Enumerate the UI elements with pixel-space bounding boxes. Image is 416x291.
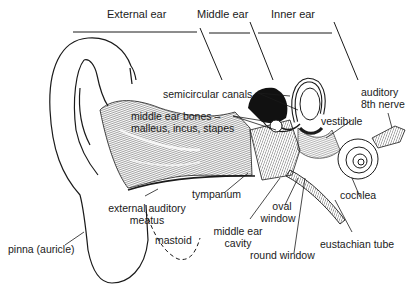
label-eustachian-tube: eustachian tube <box>320 238 394 250</box>
label-tympanum: tympanum <box>192 188 241 200</box>
section-header-middle-ear: Middle ear <box>197 8 248 20</box>
label-middle-ear-bones-line1: middle ear bones – <box>131 110 220 122</box>
cochlea-shape <box>338 139 378 179</box>
label-mastoid: mastoid <box>155 234 192 246</box>
section-divider-lines <box>73 22 358 80</box>
label-external-auditory-meatus-line1: external auditory <box>104 202 190 214</box>
auditory-nerve-shape <box>372 126 405 148</box>
label-middle-ear-bones-line2: malleus, incus, stapes <box>131 122 234 134</box>
label-cochlea: cochlea <box>340 189 376 201</box>
label-middle-ear-cavity-line2: cavity <box>208 237 268 249</box>
ear-anatomy-diagram: External ear Middle ear Inner ear semici… <box>0 0 416 291</box>
section-header-external-ear: External ear <box>107 8 166 20</box>
label-external-auditory-meatus-line2: meatus <box>104 214 190 226</box>
label-semicircular-canals: semicircular canals <box>163 88 252 100</box>
label-oval-window-line1: oval <box>262 200 302 212</box>
label-round-window: round window <box>250 249 315 261</box>
label-oval-window-line2: window <box>253 212 303 224</box>
label-auditory-nerve-line1: auditory <box>361 86 398 98</box>
label-auditory-nerve-line2: 8th nerve <box>361 98 405 110</box>
label-pinna: pinna (auricle) <box>8 243 75 255</box>
label-vestibule: vestibule <box>321 115 362 127</box>
label-middle-ear-cavity-line1: middle ear <box>208 225 268 237</box>
section-header-inner-ear: Inner ear <box>271 8 315 20</box>
